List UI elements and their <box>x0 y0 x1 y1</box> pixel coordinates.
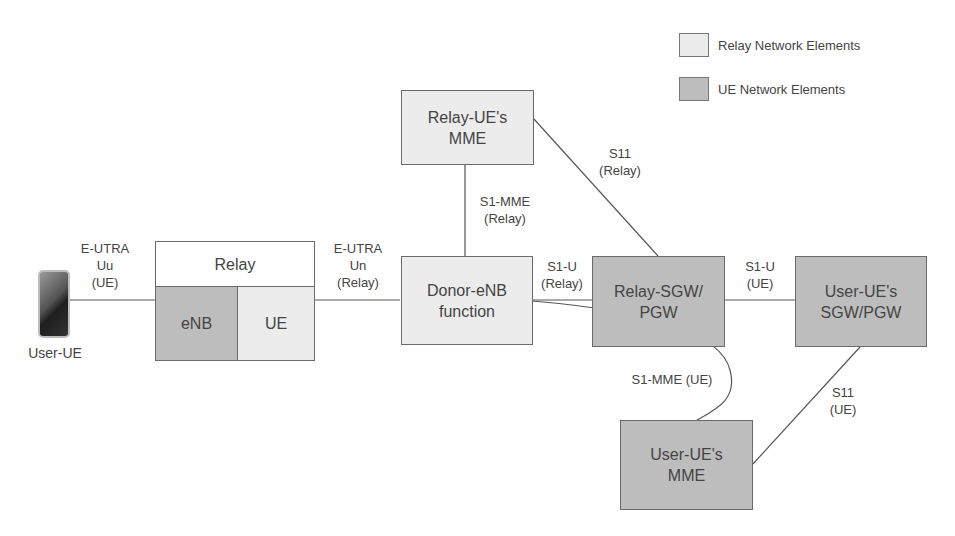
legend-swatch-ue <box>679 77 709 101</box>
relay-ue-mme-box: Relay-UE's MME <box>401 90 534 165</box>
relay-sgw-pgw-box: Relay-SGW/ PGW <box>592 256 725 347</box>
s1-mme-ue-label: S1-MME (UE) <box>622 371 722 388</box>
donor-enb-box: Donor-eNB function <box>401 256 533 345</box>
s1u-ue-label: S1-U (UE) <box>730 258 790 292</box>
s11-ue-label: S11 (UE) <box>818 384 868 418</box>
s1u-relay-label: S1-U (Relay) <box>533 258 591 292</box>
s11-relay-label: S11 (Relay) <box>585 145 655 179</box>
relay-enb-box: eNB <box>155 286 238 361</box>
s11-relay-link <box>533 118 658 256</box>
user-ue-label: User-UE <box>20 345 90 362</box>
phone-icon <box>38 270 70 338</box>
legend-label-ue: UE Network Elements <box>718 82 845 98</box>
un-interface-label: E-UTRA Un (Relay) <box>322 240 394 291</box>
s1-mme-relay-label: S1-MME (Relay) <box>470 193 540 227</box>
legend-label-relay: Relay Network Elements <box>718 38 860 54</box>
user-ue-mme-box: User-UE's MME <box>620 420 753 510</box>
legend-swatch-relay <box>679 33 709 57</box>
relay-ue-box: UE <box>237 286 315 361</box>
relay-box: Relay <box>155 241 315 287</box>
user-ue-sgw-pgw-box: User-UE's SGW/PGW <box>795 256 927 347</box>
uu-interface-label: E-UTRA Uu (UE) <box>70 240 140 291</box>
